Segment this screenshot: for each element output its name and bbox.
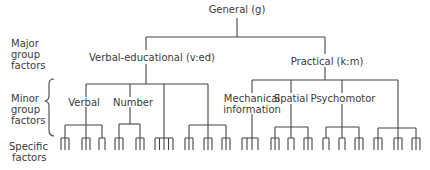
psychomotor-label: Psychomotor bbox=[311, 93, 376, 104]
specific-line-1: Specific bbox=[9, 141, 48, 152]
verbal-educational-label: Verbal-educational (v:ed) bbox=[89, 52, 215, 63]
practical-label: Practical (k:m) bbox=[291, 56, 364, 67]
spatial-label: Spatial bbox=[274, 93, 308, 104]
number-label: Number bbox=[113, 97, 153, 108]
minor-line-3: factors bbox=[11, 115, 46, 126]
general-factor-label: General (g) bbox=[209, 4, 266, 15]
specific-factor-combs bbox=[61, 138, 420, 150]
mechanical-information-label: Mechanical information bbox=[223, 93, 281, 115]
major-line-1: Major bbox=[11, 38, 46, 49]
minor-line-1: Minor bbox=[11, 93, 46, 104]
verbal-label: Verbal bbox=[68, 97, 100, 108]
minor-group-brace bbox=[45, 79, 54, 136]
mechanical-line-2: information bbox=[223, 104, 281, 115]
major-group-factors-label: Major group factors bbox=[11, 38, 46, 71]
major-line-2: group bbox=[11, 49, 46, 60]
tree-lines bbox=[0, 0, 430, 170]
specific-factors-label: Specific factors bbox=[9, 141, 48, 163]
specific-line-2: factors bbox=[9, 152, 48, 163]
hierarchical-factor-diagram: General (g) Verbal-educational (v:ed) Pr… bbox=[0, 0, 430, 170]
minor-group-factors-label: Minor group factors bbox=[11, 93, 46, 126]
minor-line-2: group bbox=[11, 104, 46, 115]
major-line-3: factors bbox=[11, 60, 46, 71]
mechanical-line-1: Mechanical bbox=[223, 93, 281, 104]
